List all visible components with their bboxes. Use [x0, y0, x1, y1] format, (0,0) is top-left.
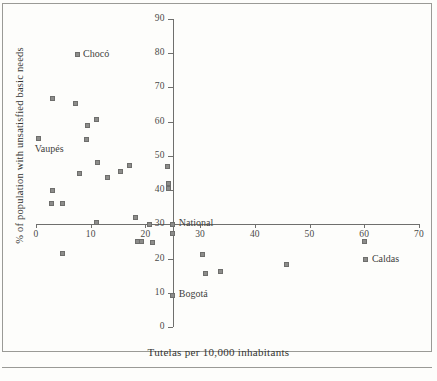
data-point-marker [200, 252, 205, 257]
data-point-marker [36, 136, 41, 141]
data-point-marker [147, 222, 152, 227]
x-axis-tick-label: 0 [22, 229, 50, 239]
x-axis-tick [255, 224, 256, 228]
x-axis-tick-label: 50 [296, 229, 324, 239]
data-point-marker [94, 117, 99, 122]
data-point-marker [165, 164, 170, 169]
y-axis-tick-label: 90 [139, 13, 165, 23]
y-axis-tick-label: 0 [139, 321, 165, 331]
data-point-marker [363, 257, 368, 262]
x-axis-label: Tutelas per 10,000 inhabitants [0, 346, 437, 358]
x-axis-tick [364, 224, 365, 228]
data-point-marker [94, 220, 99, 225]
data-point-marker [85, 123, 90, 128]
y-axis-tick [168, 327, 173, 328]
data-point-label: Vaupés [35, 143, 64, 154]
x-axis-tick-label: 30 [186, 229, 214, 239]
data-point-marker [170, 222, 175, 227]
data-point-label: Chocó [83, 48, 109, 59]
figure-container: 0102030405060700102030405060708090 Chocó… [0, 0, 437, 381]
data-point-label: National [179, 217, 213, 228]
y-axis-tick [168, 259, 173, 260]
y-axis-tick-label: 40 [139, 184, 165, 194]
data-point-marker [218, 269, 223, 274]
scatter-plot: 0102030405060700102030405060708090 Chocó… [0, 0, 437, 381]
x-axis-tick-label: 70 [405, 229, 433, 239]
data-point-marker [362, 239, 367, 244]
y-axis-tick-label: 70 [139, 81, 165, 91]
data-point-marker [73, 101, 78, 106]
y-axis-tick-label: 80 [139, 47, 165, 57]
data-point-marker [166, 186, 171, 191]
y-axis-tick [168, 19, 173, 20]
x-axis-tick [91, 224, 92, 228]
data-point-marker [150, 240, 155, 245]
x-axis-tick [419, 224, 420, 228]
y-axis-tick [168, 53, 173, 54]
data-point-marker [118, 169, 123, 174]
data-point-marker [50, 188, 55, 193]
x-axis-tick-label: 40 [241, 229, 269, 239]
data-point-marker [50, 96, 55, 101]
x-axis-tick-label: 60 [350, 229, 378, 239]
data-point-marker [105, 175, 110, 180]
y-axis-tick [168, 156, 173, 157]
y-axis-tick-label: 60 [139, 116, 165, 126]
data-point-marker [75, 52, 80, 57]
x-axis-tick-label: 20 [131, 229, 159, 239]
y-axis-label: % of population with unsatisfied basic n… [14, 41, 25, 251]
data-point-marker [77, 171, 82, 176]
data-point-marker [284, 262, 289, 267]
data-point-marker [139, 239, 144, 244]
y-axis-line [173, 19, 175, 327]
data-point-marker [170, 293, 175, 298]
data-point-label: Caldas [372, 253, 399, 264]
data-point-marker [127, 163, 132, 168]
data-point-label: Bogotá [179, 288, 208, 299]
y-axis-tick-label: 30 [139, 218, 165, 228]
data-point-marker [203, 271, 208, 276]
y-axis-tick [168, 122, 173, 123]
data-point-marker [95, 160, 100, 165]
x-axis-tick [310, 224, 311, 228]
data-point-marker [170, 231, 175, 236]
y-axis-tick [168, 87, 173, 88]
x-axis-tick [36, 224, 37, 228]
y-axis-tick-label: 50 [139, 150, 165, 160]
data-point-marker [49, 201, 54, 206]
x-axis-tick-label: 10 [77, 229, 105, 239]
y-axis-tick-label: 10 [139, 287, 165, 297]
y-axis-tick-label: 20 [139, 253, 165, 263]
data-point-marker [133, 215, 138, 220]
data-point-marker [84, 137, 89, 142]
data-point-marker [60, 251, 65, 256]
data-point-marker [60, 201, 65, 206]
